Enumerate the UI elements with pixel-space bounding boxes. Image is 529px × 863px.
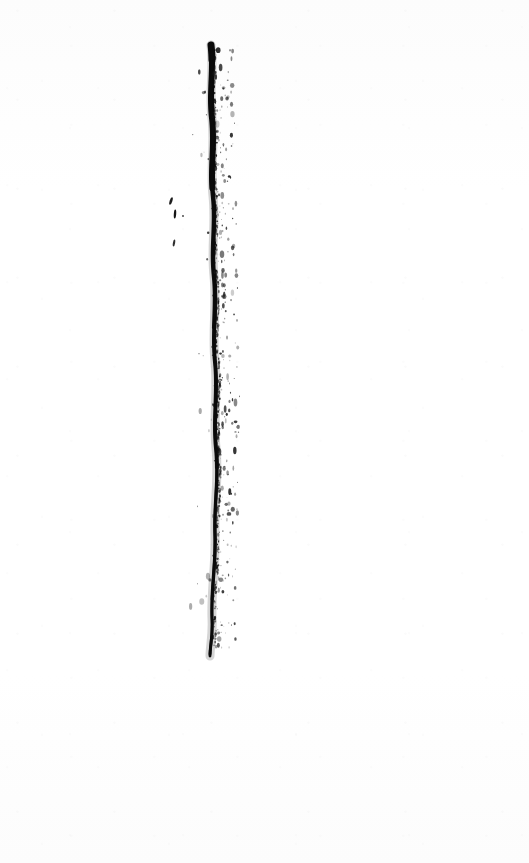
ink-speck <box>236 545 237 548</box>
detached-ink-marks <box>169 197 184 247</box>
ink-speck <box>237 287 238 289</box>
ink-speck <box>222 86 226 89</box>
ink-edge-fleck <box>213 176 215 178</box>
ink-speck <box>219 237 220 239</box>
ink-edge-fleck <box>214 262 215 264</box>
ink-edge-fleck <box>217 328 218 331</box>
detached-comma-mark <box>169 197 174 205</box>
ink-speck <box>199 598 204 605</box>
ink-speck <box>221 106 222 108</box>
ink-speck <box>220 458 221 459</box>
ink-speck <box>228 203 230 204</box>
ink-speck <box>236 510 239 516</box>
ink-speck <box>209 178 210 180</box>
ink-speck <box>232 575 233 577</box>
ink-speck <box>226 459 227 462</box>
ink-speck <box>212 354 213 356</box>
ink-speck <box>230 558 231 559</box>
ink-speck <box>230 102 233 107</box>
ink-edge-fleck <box>217 543 218 545</box>
ink-speck <box>206 258 208 261</box>
ink-speck <box>220 132 221 134</box>
ink-speck <box>217 223 218 224</box>
ink-speck <box>219 415 220 416</box>
ink-speck <box>221 519 222 520</box>
ink-speck <box>220 109 221 110</box>
ink-edge-fleck <box>218 490 221 493</box>
ink-edge-fleck <box>218 290 219 294</box>
ink-edge-fleck <box>219 464 220 468</box>
ink-speck <box>230 392 231 394</box>
ink-speck <box>221 647 222 649</box>
ink-edge-fleck <box>217 313 218 316</box>
ink-edge-fleck <box>216 130 218 132</box>
ink-speck <box>225 95 226 97</box>
ink-speck <box>221 219 222 220</box>
ink-speck <box>213 385 214 386</box>
ink-speck <box>200 153 202 158</box>
ink-speck <box>219 428 221 429</box>
ink-speck <box>202 91 205 94</box>
ink-speck <box>223 368 224 369</box>
ink-speck <box>215 74 217 80</box>
ink-edge-fleck <box>216 539 217 541</box>
ink-speck <box>223 143 225 146</box>
ink-speck <box>225 503 228 506</box>
ink-edge-fleck <box>214 145 215 148</box>
ink-speck <box>227 106 228 108</box>
ink-speck <box>206 573 210 580</box>
ink-edge-fleck <box>216 351 218 354</box>
ink-speck <box>218 440 219 442</box>
ink-edge-fleck <box>216 507 219 511</box>
ink-speck <box>226 227 228 230</box>
vertical-ink-stroke-artwork <box>0 0 529 863</box>
ink-edge-fleck <box>217 227 218 229</box>
ink-edge-fleck <box>214 591 216 594</box>
ink-edge-fleck <box>213 92 215 94</box>
ink-speck <box>225 302 226 303</box>
ink-edge-fleck <box>219 494 220 496</box>
ink-edge-fleck <box>215 148 216 151</box>
ink-edge-fleck <box>217 569 219 571</box>
ink-speck <box>227 502 230 506</box>
ink-edge-fleck <box>215 49 217 51</box>
ink-speck <box>222 378 223 379</box>
ink-speck <box>208 158 209 160</box>
ink-speck <box>219 352 222 354</box>
ink-speck <box>222 377 223 378</box>
ink-speck <box>220 170 221 173</box>
ink-speck <box>227 80 229 81</box>
ink-speck <box>235 268 237 272</box>
ink-speck <box>235 201 238 207</box>
ink-edge-fleck <box>212 104 215 108</box>
ink-speck <box>226 373 229 380</box>
ink-speck <box>221 163 224 168</box>
ink-speck <box>214 460 215 462</box>
ink-speck <box>222 514 223 516</box>
ink-speck <box>220 84 221 85</box>
ink-speck <box>217 636 221 641</box>
ink-speck <box>217 629 218 630</box>
ink-speck <box>222 174 225 177</box>
ink-speck <box>226 158 227 160</box>
ink-speck <box>213 118 215 121</box>
ink-stroke-svg <box>0 0 529 863</box>
ink-speck <box>189 603 192 610</box>
ink-speck <box>231 422 233 425</box>
ink-speck <box>227 238 229 241</box>
ink-speck <box>219 64 223 72</box>
ink-speck <box>237 425 240 429</box>
ink-speck <box>224 416 225 418</box>
ink-edge-fleck <box>216 395 218 399</box>
ink-speck <box>234 586 237 590</box>
ink-speck <box>229 382 230 384</box>
ink-speck <box>199 408 202 414</box>
detached-dot-mark <box>182 215 184 217</box>
ink-speck <box>223 474 224 475</box>
ink-edge-fleck <box>217 301 219 305</box>
ink-speck <box>218 576 219 580</box>
ink-speck <box>221 117 222 118</box>
ink-speck <box>236 426 237 427</box>
ink-speck <box>236 508 238 510</box>
ink-speck <box>217 249 218 251</box>
